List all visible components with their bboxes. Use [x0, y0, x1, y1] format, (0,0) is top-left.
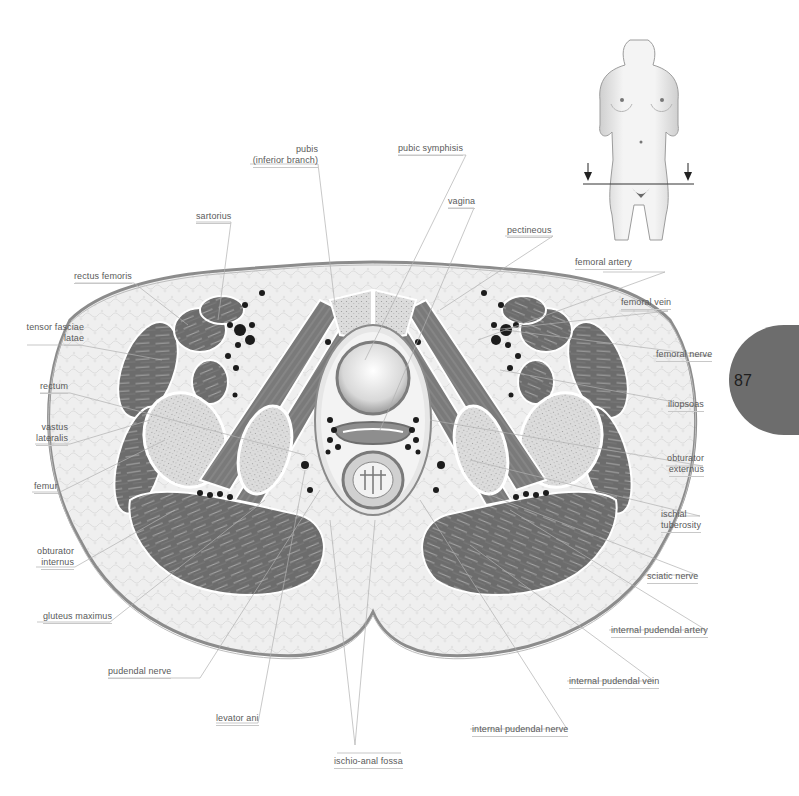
label-rectus-femoris: rectus femoris	[74, 271, 132, 284]
label-internal-pudendal-artery: internal pudendal artery	[611, 625, 708, 638]
label-vastus-lateralis: vastus lateralis	[28, 422, 68, 446]
label-femoral-nerve: femoral nerve	[656, 349, 712, 362]
label-obturator-externus: obturator externus	[660, 453, 704, 477]
label-sartorius: sartorius	[196, 211, 231, 224]
label-pubis: pubis (inferior branch)	[250, 144, 318, 168]
label-ischial-tuberosity: ischial tuberosity	[661, 509, 701, 533]
label-rectum: rectum	[40, 381, 68, 394]
label-ischio-anal-fossa: ischio-anal fossa	[334, 756, 403, 769]
label-femoral-artery: femoral artery	[575, 257, 632, 270]
label-sciatic-nerve: sciatic nerve	[647, 571, 698, 584]
page-number: 87	[734, 372, 752, 390]
label-femur: femur	[34, 481, 58, 494]
label-pudendal-nerve: pudendal nerve	[108, 666, 171, 679]
label-internal-pudendal-vein: internal pudendal vein	[569, 676, 659, 689]
label-femoral-vein: femoral vein	[621, 297, 671, 310]
label-obturator-internus: obturator internus	[30, 546, 74, 570]
locator-torso-figure	[583, 40, 694, 240]
label-levator-ani: levator ani	[216, 713, 259, 726]
label-pectineous: pectineous	[507, 225, 552, 238]
label-iliopsoas: iliopsoas	[668, 399, 704, 412]
label-vagina: vagina	[448, 196, 475, 209]
label-tensor-fasciae-latae: tensor fasciae latae	[22, 322, 84, 346]
label-internal-pudendal-nerve: internal pudendal nerve	[472, 724, 568, 737]
label-gluteus-maximus: gluteus maximus	[43, 611, 112, 624]
label-pubic-symphisis: pubic symphisis	[398, 143, 463, 156]
